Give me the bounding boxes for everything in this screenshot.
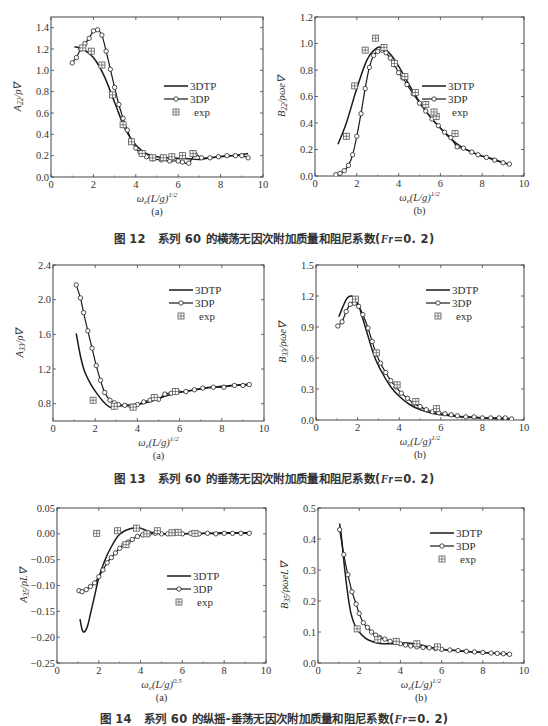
data-marker-circle [342,169,346,173]
y-tick-label: 1.5 [301,260,314,271]
series-3dtp [80,528,251,633]
data-marker-circle [80,590,84,594]
data-marker-circle [90,346,94,350]
figure-12-caption: 图 12系列 60 的横荡无因次附加质量和阻尼系数(Fr=0. 2) [0,230,548,246]
chart-fig12a: 02468100.00.20.40.60.81.01.21.4A22/ρ∇ωe(… [12,17,268,218]
y-tick-label: 1.0 [36,65,49,76]
data-marker-circle [246,156,250,160]
data-marker-circle [142,400,146,404]
x-tick-label: 4 [396,178,402,189]
caption-text: 系列 60 的纵摇-垂荡无因次附加质量和阻尼系数( [144,712,395,726]
series-3dp [340,530,510,655]
data-marker-circle [443,412,447,416]
x-tick-label: 10 [259,423,270,434]
y-tick-label: 0.6 [301,353,314,364]
data-marker-circle [118,546,122,550]
data-marker-circle [442,130,446,134]
y-tick-label: 0.00 [37,528,55,539]
data-marker-circle [87,36,91,40]
subfigure-label: (a) [156,692,168,704]
x-tick-label: 2 [91,179,96,190]
x-axis-label: ωe(L/g)1/2 [400,434,441,449]
x-tick-label: 4 [398,665,404,676]
figure-number: 图 13 [114,472,146,486]
chart-fig12b: 02468100.00.20.40.60.81.01.2B22/ρωe∇ωe(L… [276,12,529,218]
data-marker-circle [418,404,422,408]
data-marker-circle [222,531,226,535]
legend-label-exp: exp [452,106,468,118]
y-tick-label: 1.2 [301,291,314,302]
y-tick-label: 2.0 [38,294,51,305]
data-marker-circle [117,102,121,106]
y-tick-label: 0.4 [300,118,314,129]
legend-label-3dp: 3DP [193,583,213,595]
data-marker-circle [232,383,236,387]
data-marker-circle [91,29,95,33]
chart-fig14b: 02468100.00.10.20.30.40.5B35/ρωeL∇ωe(L/g… [279,503,529,705]
x-axis-label: ωe(L/g)1/2 [401,677,442,692]
legend: 3DTP3DPexp [164,80,216,118]
data-marker-circle [337,528,341,532]
y-tick-label: 0.2 [300,144,313,155]
data-marker-circle [366,326,370,330]
data-marker-circle [399,391,403,395]
data-marker-circle [383,370,387,374]
legend-label-3dp: 3DP [452,297,472,309]
data-marker-circle [405,82,409,86]
legend: 3DTP3DPexp [430,527,482,565]
data-marker-circle [507,162,511,166]
data-marker-circle [108,398,112,402]
chart-fig14a: 0246810−0.25−0.20−0.15−0.10−0.050.000.05… [18,503,271,705]
data-marker-circle [489,651,493,655]
x-tick-label: 6 [177,423,182,434]
caption-text: 系列 60 的垂荡无因次附加质量和阻尼系数( [158,472,381,486]
data-marker-circle [240,153,244,157]
legend: 3DTP3DPexp [422,80,474,118]
data-marker-circle [216,155,220,159]
x-tick-label: 6 [438,422,443,433]
data-marker-circle [350,590,354,594]
data-marker-circle [208,156,212,160]
y-tick-label: 0.2 [36,150,49,161]
data-marker-circle [338,171,342,175]
plot-frame [51,17,263,177]
data-marker-circle [396,70,400,74]
y-tick-label: 0.4 [303,534,317,545]
data-marker-circle [192,388,196,392]
legend-label-exp: exp [197,596,213,608]
y-tick-label: 1.0 [300,38,313,49]
data-marker-circle [464,415,468,419]
data-marker-circle [503,416,507,420]
data-marker-circle [81,310,85,314]
caption-text: 系列 60 的横荡无因次附加质量和阻尼系数( [158,232,381,246]
data-marker-circle [86,329,90,333]
data-marker-circle [100,33,104,37]
subfigure-label: (a) [153,450,165,462]
data-marker-circle [102,390,106,394]
x-tick-label: 8 [219,423,224,434]
x-axis-label: ωe(L/g)1/2 [138,435,179,450]
x-tick-label: 2 [93,423,98,434]
data-marker-circle [417,101,421,105]
figure-13-caption: 图 13系列 60 的垂荡无因次附加质量和阻尼系数(Fr=0. 2) [0,470,548,486]
data-marker-circle [95,28,99,32]
data-marker-circle [359,112,363,116]
data-marker-circle [388,639,392,643]
y-tick-label: 1.2 [38,364,51,375]
data-marker-circle [225,153,229,157]
data-marker-circle [94,363,98,367]
data-marker-circle [123,403,127,407]
y-tick-label: −0.20 [31,632,55,643]
x-tick-label: 8 [480,665,485,676]
x-tick-label: 4 [138,665,144,676]
y-tick-label: −0.15 [31,606,55,617]
data-marker-circle [480,416,484,420]
y-tick-label: 1.2 [300,12,313,23]
data-marker-circle [84,587,88,591]
data-marker-circle [405,396,409,400]
data-marker-circle [222,385,226,389]
y-tick-label: −0.10 [31,580,55,591]
x-tick-label: 8 [218,179,223,190]
figure-number: 图 12 [114,232,146,246]
data-marker-circle [497,416,501,420]
